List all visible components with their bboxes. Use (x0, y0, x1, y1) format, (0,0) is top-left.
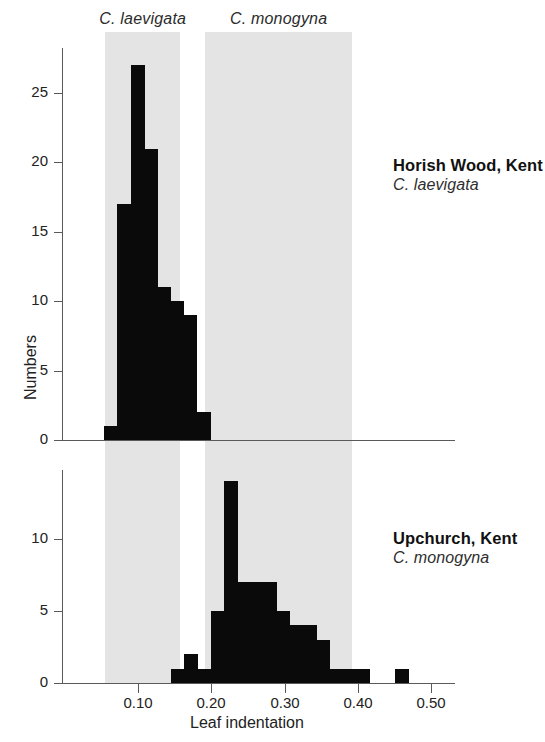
panel-site-label: Horish Wood, Kent (393, 155, 543, 175)
panel-species-label: C. monogyna (393, 548, 517, 568)
panel-caption-2: Upchurch, KentC. monogyna (393, 528, 517, 568)
histogram-bar (184, 654, 198, 683)
y-axis-title: Numbers (22, 335, 40, 400)
y-axis-line-panel-2 (62, 470, 63, 684)
band-label-1: C. laevigata (99, 10, 186, 28)
x-tick (285, 684, 286, 693)
x-tick (431, 684, 432, 693)
panel-caption-1: Horish Wood, KentC. laevigata (393, 155, 543, 195)
histogram-bar (144, 149, 158, 440)
x-tick-label: 0.10 (108, 694, 168, 711)
x-axis-line-panel-1 (62, 440, 455, 441)
band-label-2: C. monogyna (230, 10, 327, 28)
histogram-bar (316, 640, 330, 683)
histogram-bar (104, 426, 118, 440)
y-tick-label: 0 (10, 430, 48, 447)
histogram-bar (263, 582, 277, 683)
panel-species-label: C. laevigata (393, 175, 543, 195)
histogram-bar (356, 669, 370, 683)
histogram-bar (131, 65, 145, 440)
histogram-bar (237, 582, 251, 683)
y-tick-panel-1 (54, 162, 63, 163)
y-tick-label: 25 (10, 83, 48, 100)
histogram-bar (197, 426, 211, 440)
x-tick-label: 0.30 (255, 694, 315, 711)
histogram-bar (183, 315, 197, 440)
y-tick-label: 15 (10, 222, 48, 239)
histogram-bar (329, 669, 343, 683)
y-tick-label: 10 (10, 291, 48, 308)
y-tick-panel-2 (54, 539, 63, 540)
y-tick-label: 5 (10, 601, 48, 618)
histogram-bar (171, 669, 185, 683)
x-tick-label: 0.20 (181, 694, 241, 711)
histogram-bar (395, 669, 409, 683)
y-tick-label: 0 (10, 673, 48, 690)
y-tick-label: 20 (10, 152, 48, 169)
histogram-bar (197, 669, 211, 683)
histogram-bar (250, 582, 264, 683)
y-tick-panel-1 (54, 232, 63, 233)
y-tick-panel-2 (54, 683, 63, 684)
y-tick-panel-1 (54, 301, 63, 302)
y-tick-label: 10 (10, 529, 48, 546)
x-tick (138, 684, 139, 693)
histogram-bar (276, 611, 290, 683)
panel-site-label: Upchurch, Kent (393, 528, 517, 548)
x-tick (211, 684, 212, 693)
histogram-bar (157, 287, 171, 440)
x-tick-label: 0.50 (401, 694, 461, 711)
histogram-bar (224, 481, 238, 683)
histogram-bar (211, 611, 225, 683)
y-tick-panel-1 (54, 93, 63, 94)
histogram-bar (117, 204, 131, 440)
y-tick-panel-2 (54, 611, 63, 612)
histogram-figure: C. laevigataC. monogyna051015202505100.1… (0, 0, 545, 742)
y-tick-panel-1 (54, 371, 63, 372)
x-axis-title: Leaf indentation (190, 714, 304, 732)
histogram-bar (290, 625, 304, 683)
y-tick-panel-1 (54, 440, 63, 441)
histogram-bar (303, 625, 317, 683)
x-tick-label: 0.40 (328, 694, 388, 711)
histogram-bar (170, 301, 184, 440)
x-tick (358, 684, 359, 693)
x-axis-line-panel-2 (62, 683, 455, 684)
y-axis-line-panel-1 (62, 48, 63, 441)
histogram-bar (342, 669, 356, 683)
